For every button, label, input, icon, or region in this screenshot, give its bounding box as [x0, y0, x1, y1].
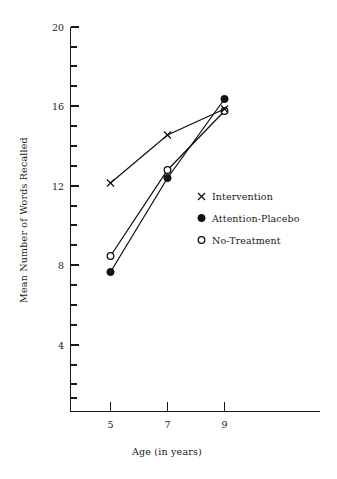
y-tick-label-8: 8 [58, 260, 64, 271]
data-point-attention-placebo-age5 [107, 268, 114, 275]
cross-marker-icon [198, 193, 205, 200]
data-point-attention-placebo-age7 [164, 174, 171, 181]
filled-circle-marker-icon [198, 214, 205, 221]
legend-label-no-treatment: No-Treatment [212, 235, 281, 246]
legend-item-no-treatment: No-Treatment [198, 235, 281, 246]
open-circle-marker-icon [198, 237, 205, 244]
series-no-treatment [107, 108, 228, 260]
y-tick-label-20: 20 [52, 22, 64, 33]
x-axis-tick-labels: 5 7 9 [107, 419, 227, 430]
y-tick-label-4: 4 [58, 340, 64, 351]
y-tick-label-16: 16 [52, 101, 64, 112]
legend-label-intervention: Intervention [212, 191, 273, 202]
series-no-treatment-line [111, 111, 225, 256]
x-axis-title: Age (in years) [131, 446, 202, 457]
data-point-no-treatment-age7 [164, 167, 171, 174]
data-point-no-treatment-age5 [107, 253, 114, 260]
series-attention-placebo [107, 95, 228, 275]
chart-figure: 20 16 12 8 4 5 7 9 Age (in years) Mean N… [0, 0, 337, 479]
y-axis-tick-labels: 20 16 12 8 4 [52, 22, 64, 351]
x-tick-label-5: 5 [107, 419, 113, 430]
x-tick-label-9: 9 [221, 419, 227, 430]
x-tick-label-7: 7 [164, 419, 170, 430]
chart-legend: Intervention Attention-Placebo No-Treatm… [198, 191, 300, 246]
data-point-intervention-age5 [107, 180, 114, 187]
data-point-attention-placebo-age9 [221, 95, 228, 102]
y-axis-major-ticks [71, 27, 80, 345]
x-axis-ticks [111, 402, 225, 412]
legend-item-attention-placebo: Attention-Placebo [198, 213, 300, 224]
series-attention-placebo-line [111, 99, 225, 272]
data-point-intervention-age7 [164, 132, 171, 139]
chart-canvas: 20 16 12 8 4 5 7 9 Age (in years) Mean N… [0, 0, 337, 479]
legend-item-intervention: Intervention [198, 191, 273, 202]
legend-label-attention-placebo: Attention-Placebo [211, 213, 300, 224]
y-axis-title: Mean Number of Words Recalled [18, 137, 29, 303]
y-tick-label-12: 12 [52, 181, 64, 192]
